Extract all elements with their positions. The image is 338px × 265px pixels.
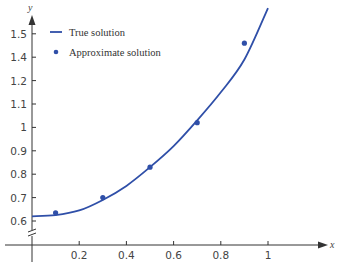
y-tick-label: 1.1: [10, 98, 27, 110]
y-axis-arrow-icon: [29, 15, 36, 25]
chart: x 0.20.40.60.81 y 0.60.70.80.911.11.21.4…: [0, 0, 338, 265]
x-tick-label: 0.6: [165, 249, 182, 261]
legend-item-approximate-solution: Approximate solution: [54, 47, 162, 58]
true-solution-curve: [32, 8, 268, 216]
y-tick-label: 0.8: [10, 168, 27, 180]
x-tick-label: 0.8: [212, 249, 229, 261]
y-tick-label: 0.7: [10, 192, 27, 204]
x-axis: x 0.20.40.60.81: [5, 239, 335, 261]
x-tick-label: 0.2: [71, 249, 88, 261]
data-point: [195, 120, 200, 125]
data-point: [100, 195, 105, 200]
legend: True solution Approximate solution: [50, 27, 162, 58]
y-tick-label: 1: [20, 121, 27, 133]
y-ticks: 0.60.70.80.911.11.21.41.5: [10, 28, 36, 227]
data-point: [53, 210, 58, 215]
y-tick-label: 0.6: [10, 215, 27, 227]
plot-area: x 0.20.40.60.81 y 0.60.70.80.911.11.21.4…: [0, 0, 338, 265]
x-tick-label: 1: [265, 249, 272, 261]
data-point: [242, 41, 247, 46]
x-ticks: 0.20.40.60.81: [71, 241, 271, 261]
y-tick-label: 1.5: [10, 28, 27, 40]
legend-label: True solution: [69, 27, 126, 38]
dot-swatch-icon: [54, 50, 59, 55]
y-axis: y 0.60.70.80.911.11.21.41.5: [10, 2, 36, 262]
axis-break-icon: [28, 229, 36, 236]
legend-item-true-solution: True solution: [50, 27, 126, 38]
data-point: [147, 165, 152, 170]
y-axis-label: y: [27, 2, 33, 13]
y-tick-label: 1.4: [10, 51, 27, 63]
x-axis-label: x: [329, 239, 335, 250]
y-tick-label: 1.2: [10, 75, 27, 87]
legend-label: Approximate solution: [69, 47, 162, 58]
x-axis-arrow-icon: [318, 242, 328, 249]
x-tick-label: 0.4: [118, 249, 135, 261]
approximate-solution-points: [53, 41, 247, 216]
y-tick-label: 0.9: [10, 145, 27, 157]
